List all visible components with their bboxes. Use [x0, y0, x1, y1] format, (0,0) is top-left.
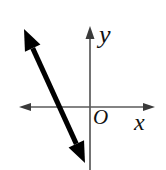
origin-label: O	[93, 107, 108, 128]
graph-canvas	[0, 0, 166, 170]
plotted-line-lower-arrow-icon	[69, 140, 85, 163]
plotted-line	[33, 48, 77, 144]
y-axis-up-arrow-icon	[86, 26, 95, 39]
plotted-line-upper-arrow-icon	[24, 29, 40, 52]
coordinate-plane-figure: y x O	[0, 0, 166, 170]
x-axis-label: x	[134, 110, 145, 134]
x-axis-left-arrow-icon	[19, 103, 31, 111]
y-axis-label: y	[99, 22, 111, 48]
